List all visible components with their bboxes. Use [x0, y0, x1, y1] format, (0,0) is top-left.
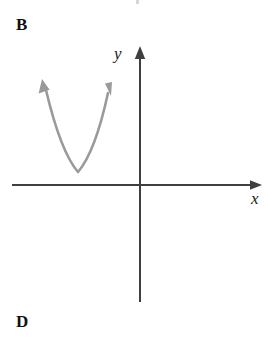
coordinate-plane-plot [0, 0, 269, 337]
parabola-left-arrowhead-icon [39, 79, 50, 93]
y-axis-arrowhead-icon [135, 46, 145, 59]
parabola-curve [46, 90, 108, 172]
x-axis-arrowhead-icon [250, 180, 262, 190]
figure-canvas: B D y x [0, 0, 269, 337]
